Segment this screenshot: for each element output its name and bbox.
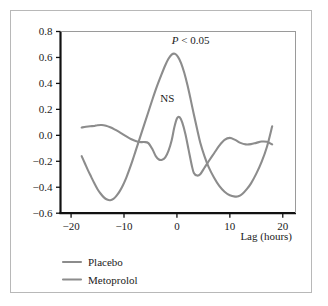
chart-series-lines [82, 54, 273, 201]
chart-legend: PlaceboMetoprolol [63, 256, 138, 286]
x-axis-tick-label: −20 [62, 220, 80, 232]
annotation-ns: NS [160, 92, 174, 104]
y-axis-tick-label: −0.6 [33, 207, 53, 219]
y-axis-tick-label: −0.2 [33, 155, 53, 167]
x-axis-tick-label: 0 [174, 220, 180, 232]
legend-label-placebo: Placebo [88, 256, 123, 268]
correlation-lag-chart: −0.6−0.4−0.20.00.20.40.60.8 −20−1001020 … [0, 0, 328, 306]
y-axis-tick-label: 0.6 [39, 51, 53, 63]
y-axis-tick-labels: −0.6−0.4−0.20.00.20.40.60.8 [33, 25, 53, 219]
y-axis-tick-label: 0.0 [39, 129, 53, 141]
series-line-placebo [82, 117, 273, 176]
legend-label-metoprolol: Metoprolol [88, 274, 138, 286]
annotation-p-value: P < 0.05 [171, 34, 210, 46]
y-axis-tick-label: 0.4 [39, 77, 53, 89]
y-axis-tick-label: 0.2 [39, 103, 53, 115]
y-axis-tick-label: 0.8 [39, 25, 53, 37]
chart-annotations: P < 0.05NS [160, 34, 210, 104]
figure-root: −0.6−0.4−0.20.00.20.40.60.8 −20−1001020 … [0, 0, 328, 306]
y-axis-tick-label: −0.4 [33, 181, 53, 193]
x-axis-tick-label: 10 [224, 220, 236, 232]
x-axis-title: Lag (hours) [240, 230, 292, 243]
x-axis-tick-label: −10 [115, 220, 133, 232]
